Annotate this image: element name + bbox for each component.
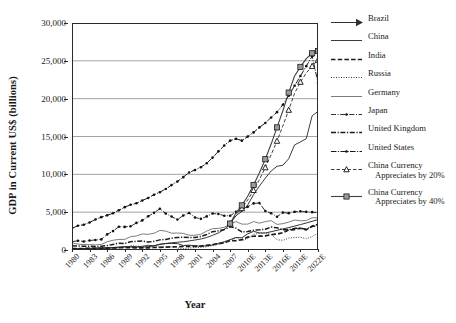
y-tick-mark bbox=[64, 174, 68, 175]
legend-item-brazil[interactable]: Brazil bbox=[330, 14, 454, 25]
x-tick-mark bbox=[265, 249, 266, 252]
x-tick-mark bbox=[248, 249, 249, 252]
legend-item-united-states[interactable]: United States bbox=[330, 143, 454, 154]
y-tick-mark bbox=[64, 61, 68, 62]
legend-key-swatch bbox=[330, 51, 364, 62]
y-tick-mark bbox=[64, 23, 68, 24]
x-tick-label: 1980 bbox=[63, 252, 81, 270]
plot-frame bbox=[72, 23, 318, 250]
x-tick-label: 1986 bbox=[99, 252, 117, 270]
x-tick-mark bbox=[177, 249, 178, 252]
legend-key-swatch bbox=[330, 161, 364, 172]
x-tick-label: 1992 bbox=[134, 252, 152, 270]
legend-label-line2: Appreciates by 40% bbox=[368, 197, 445, 207]
x-tick-mark bbox=[72, 249, 73, 252]
y-tick-label: 5,000 bbox=[10, 207, 66, 217]
legend-item-china-currency-9[interactable]: China CurrencyAppreciates by 40% bbox=[330, 188, 454, 207]
legend-key-swatch bbox=[330, 32, 364, 43]
legend-item-china[interactable]: China bbox=[330, 32, 454, 43]
x-tick-mark bbox=[160, 249, 161, 252]
x-tick-mark bbox=[90, 249, 91, 252]
x-tick-mark bbox=[142, 249, 143, 252]
legend-label: United Kingdom bbox=[364, 124, 426, 134]
legend-item-germany[interactable]: Germany bbox=[330, 88, 454, 99]
legend-label: Brazil bbox=[364, 14, 389, 24]
legend-key-swatch bbox=[330, 188, 364, 199]
y-tick-label: 30,000 bbox=[10, 18, 66, 28]
legend-label: China CurrencyAppreciates by 20% bbox=[364, 161, 445, 180]
x-tick-mark bbox=[300, 249, 301, 252]
legend-item-united-kingdom[interactable]: United Kingdom bbox=[330, 124, 454, 135]
x-tick-mark bbox=[195, 249, 196, 252]
x-tick-mark bbox=[213, 249, 214, 252]
legend-key-swatch bbox=[330, 88, 364, 99]
x-tick-label: 2022E bbox=[306, 252, 327, 273]
x-tick-mark bbox=[283, 249, 284, 252]
y-tick-mark bbox=[64, 99, 68, 100]
x-tick-label: 1989 bbox=[116, 252, 134, 270]
x-tick-mark bbox=[230, 249, 231, 252]
y-tick-mark bbox=[64, 137, 68, 138]
gdp-projection-chart: GDP in Current US$ (billions) 05,00010,0… bbox=[0, 0, 456, 323]
x-tick-label: 2016E bbox=[271, 252, 292, 273]
legend-label: Japan bbox=[364, 106, 388, 116]
y-axis-tick-labels: 05,00010,00015,00020,00025,00030,000 bbox=[8, 0, 66, 323]
x-tick-label: 2019E bbox=[288, 252, 309, 273]
x-tick-label: 2001 bbox=[186, 252, 204, 270]
legend-key-swatch bbox=[330, 69, 364, 80]
x-tick-label: 2004 bbox=[204, 252, 222, 270]
x-tick-mark bbox=[107, 249, 108, 252]
x-tick-label: 1983 bbox=[81, 252, 99, 270]
y-tick-label: 20,000 bbox=[10, 94, 66, 104]
legend-key-swatch bbox=[330, 106, 364, 117]
legend-label: United States bbox=[364, 143, 414, 153]
legend-label: Germany bbox=[364, 88, 400, 98]
chart-legend: BrazilChinaIndiaRussiaGermanyJapanUnited… bbox=[330, 14, 454, 214]
x-tick-label: 2010E bbox=[236, 252, 257, 273]
y-tick-label: 10,000 bbox=[10, 169, 66, 179]
y-tick-mark bbox=[64, 250, 68, 251]
x-tick-mark bbox=[125, 249, 126, 252]
legend-key-swatch bbox=[330, 14, 364, 25]
legend-item-japan[interactable]: Japan bbox=[330, 106, 454, 117]
legend-label: India bbox=[364, 51, 386, 61]
x-tick-label: 2013E bbox=[253, 252, 274, 273]
x-axis-title: Year bbox=[72, 299, 318, 310]
legend-item-india[interactable]: India bbox=[330, 51, 454, 62]
legend-label: China bbox=[364, 32, 389, 42]
x-axis-tick-labels: 1980198319861989199219951998200120042007… bbox=[72, 252, 318, 298]
legend-label-line2: Appreciates by 20% bbox=[368, 171, 445, 181]
legend-label: China CurrencyAppreciates by 40% bbox=[364, 188, 445, 207]
x-tick-label: 1998 bbox=[169, 252, 187, 270]
y-tick-label: 0 bbox=[10, 245, 66, 255]
plot-area bbox=[72, 23, 318, 250]
x-tick-label: 1995 bbox=[151, 252, 169, 270]
legend-key-swatch bbox=[330, 143, 364, 154]
y-tick-label: 25,000 bbox=[10, 56, 66, 66]
legend-item-china-currency-8[interactable]: China CurrencyAppreciates by 20% bbox=[330, 161, 454, 180]
legend-label: Russia bbox=[364, 69, 391, 79]
legend-item-russia[interactable]: Russia bbox=[330, 69, 454, 80]
y-tick-mark bbox=[64, 212, 68, 213]
x-tick-mark bbox=[318, 249, 319, 252]
legend-key-swatch bbox=[330, 124, 364, 135]
y-tick-label: 15,000 bbox=[10, 132, 66, 142]
